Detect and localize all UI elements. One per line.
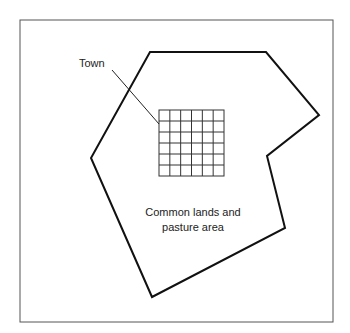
land-use-diagram: Town Common lands and pasture area: [0, 0, 350, 333]
commons-label-line2: pasture area: [162, 221, 225, 233]
diagram-canvas: Town Common lands and pasture area: [0, 0, 350, 333]
commons-label-line1: Common lands and: [145, 206, 240, 218]
town-label: Town: [79, 57, 105, 69]
town-grid: [159, 110, 224, 176]
